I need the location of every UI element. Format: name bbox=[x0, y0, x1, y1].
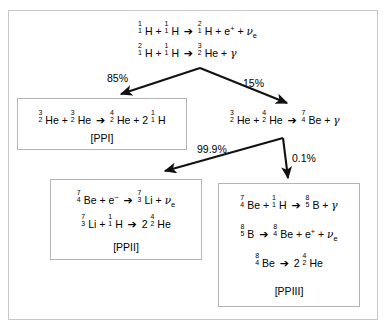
element-symbol: H bbox=[171, 47, 179, 59]
nuclide: 42 bbox=[262, 113, 269, 124]
nuclide: 32 bbox=[71, 113, 78, 124]
element-symbol: He bbox=[78, 114, 91, 126]
element-symbol: Be bbox=[308, 114, 321, 126]
reaction-arrow-icon: ➔ bbox=[179, 47, 198, 60]
nuclide: 42 bbox=[110, 113, 117, 124]
neutrino: νe bbox=[165, 194, 175, 206]
ppi-reaction-box: 32He + 32He ➔ 42He + 2 11H [PPI] bbox=[17, 98, 187, 150]
operator: + bbox=[315, 228, 327, 240]
equation-ppii-2: 73Li + 11H ➔ 2 42He bbox=[51, 217, 201, 230]
element-symbol: H bbox=[115, 218, 123, 230]
nuclide: 32 bbox=[198, 46, 205, 57]
nuclide: 84 bbox=[273, 227, 280, 238]
branch-label-99-9-percent: 99.9% bbox=[197, 143, 227, 155]
nuclide: 32 bbox=[230, 113, 237, 124]
equation-ppiii-3: 84Be ➔ 2 42He bbox=[219, 256, 359, 269]
element-symbol: H bbox=[145, 25, 153, 37]
element-symbol: H bbox=[279, 199, 287, 211]
particle: e+ bbox=[224, 25, 234, 37]
nuclide: 11 bbox=[164, 46, 171, 57]
element-symbol: H bbox=[158, 114, 166, 126]
nuclide: 73 bbox=[81, 217, 88, 228]
operator: + bbox=[250, 114, 262, 126]
ppii-reaction-box: 74Be + e− ➔ 73Li + νe 73Li + 11H ➔ 2 42H… bbox=[50, 179, 202, 260]
nuclide: 42 bbox=[303, 256, 310, 267]
ppiii-label: [PPIII] bbox=[219, 285, 359, 297]
particle: e+ bbox=[305, 228, 315, 240]
nuclide: 21 bbox=[198, 24, 205, 35]
operator: + bbox=[321, 114, 333, 126]
nuclide: 11 bbox=[151, 113, 158, 124]
reaction-arrow-icon: ➔ bbox=[123, 218, 142, 231]
nuclide: 74 bbox=[240, 198, 247, 209]
coefficient: 2 bbox=[294, 257, 303, 269]
reaction-arrow-icon: ➔ bbox=[91, 114, 110, 127]
equation-he3-he4-be7: 32He + 42He ➔ 74Be + γ bbox=[230, 113, 340, 126]
element-symbol: He bbox=[45, 114, 58, 126]
element-symbol: He bbox=[205, 47, 218, 59]
equation-ppi-1: 32He + 32He ➔ 42He + 2 11H bbox=[18, 113, 186, 126]
reaction-arrow-icon: ➔ bbox=[283, 114, 302, 127]
ppii-label: [PPII] bbox=[51, 241, 201, 253]
coefficient: 2 bbox=[142, 114, 151, 126]
gamma-ray: γ bbox=[230, 47, 236, 59]
equation-pp-step-2: 21H + 11H ➔ 32He + γ bbox=[138, 46, 236, 59]
element-symbol: Be bbox=[280, 228, 293, 240]
operator: + bbox=[153, 194, 165, 206]
neutrino: νe bbox=[327, 228, 337, 240]
element-symbol: He bbox=[157, 218, 170, 230]
element-symbol: He bbox=[309, 257, 322, 269]
reaction-arrow-icon: ➔ bbox=[275, 257, 294, 270]
equation-pp-step-1: 11H + 11H ➔ 21H + e+ + νe bbox=[138, 24, 257, 37]
nuclide: 11 bbox=[164, 24, 171, 35]
ppiii-reaction-box: 74Be + 11H ➔ 85B + γ 85B ➔ 84Be + e+ + ν… bbox=[218, 183, 360, 307]
operator: + bbox=[234, 25, 246, 37]
operator: + bbox=[218, 47, 230, 59]
gamma-ray: γ bbox=[331, 199, 337, 211]
nuclide: 74 bbox=[302, 113, 309, 124]
gamma-ray: γ bbox=[333, 114, 339, 126]
ppi-label: [PPI] bbox=[18, 132, 186, 144]
nuclide: 11 bbox=[138, 24, 145, 35]
operator: + bbox=[97, 194, 109, 206]
diagram-canvas: 11H + 11H ➔ 21H + e+ + νe 21H + 11H ➔ 32… bbox=[0, 0, 388, 334]
nuclide: 85 bbox=[240, 227, 247, 238]
reaction-arrow-icon: ➔ bbox=[287, 199, 306, 212]
branch-label-0-1-percent: 0.1% bbox=[292, 152, 316, 164]
element-symbol: He bbox=[269, 114, 282, 126]
element-symbol: Be bbox=[262, 257, 275, 269]
equation-ppiii-2: 85B ➔ 84Be + e+ + νe bbox=[219, 227, 359, 240]
nuclide: 21 bbox=[138, 46, 145, 57]
operator: + bbox=[260, 199, 272, 211]
branch-label-85-percent: 85% bbox=[107, 72, 128, 84]
operator: + bbox=[130, 114, 142, 126]
coefficient: 2 bbox=[142, 218, 151, 230]
nuclide: 11 bbox=[272, 198, 279, 209]
element-symbol: He bbox=[117, 114, 130, 126]
reaction-arrow-icon: ➔ bbox=[119, 194, 138, 207]
reaction-arrow-icon: ➔ bbox=[254, 228, 273, 241]
nuclide: 84 bbox=[255, 256, 262, 267]
operator: + bbox=[59, 114, 71, 126]
equation-ppii-1: 74Be + e− ➔ 73Li + νe bbox=[51, 193, 201, 206]
nuclide: 74 bbox=[77, 193, 84, 204]
nuclide: 73 bbox=[138, 193, 145, 204]
particle: e− bbox=[109, 194, 119, 206]
reaction-arrow-icon: ➔ bbox=[179, 25, 198, 38]
element-symbol: Be bbox=[84, 194, 97, 206]
operator: + bbox=[96, 218, 108, 230]
nuclide: 32 bbox=[38, 113, 45, 124]
neutrino: νe bbox=[246, 25, 256, 37]
element-symbol: He bbox=[237, 114, 250, 126]
operator: + bbox=[319, 199, 331, 211]
element-symbol: Be bbox=[247, 199, 260, 211]
operator: + bbox=[293, 228, 305, 240]
element-symbol: Li bbox=[145, 194, 153, 206]
nuclide: 11 bbox=[108, 217, 115, 228]
equation-ppiii-1: 74Be + 11H ➔ 85B + γ bbox=[219, 198, 359, 211]
operator: + bbox=[212, 25, 224, 37]
nuclide: 42 bbox=[150, 217, 157, 228]
element-symbol: H bbox=[145, 47, 153, 59]
operator: + bbox=[153, 47, 165, 59]
element-symbol: H bbox=[171, 25, 179, 37]
